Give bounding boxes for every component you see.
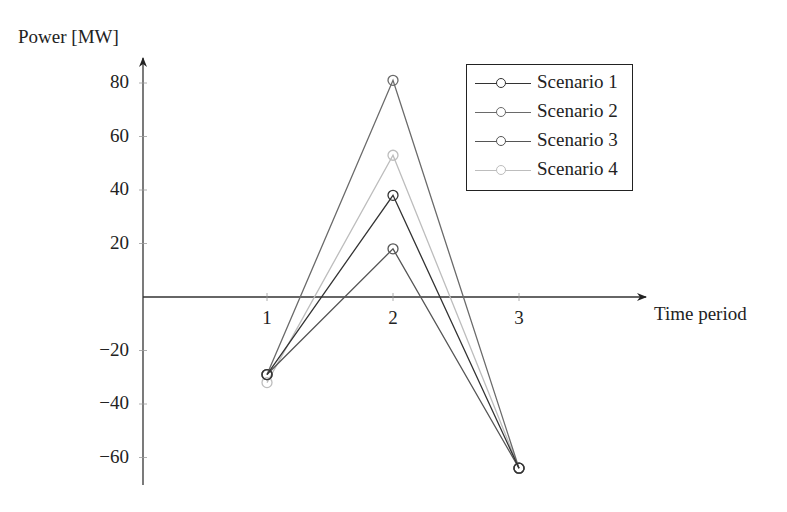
series-scenario-1 xyxy=(262,190,524,473)
y-tick-label: 20 xyxy=(69,232,129,254)
series-scenario-3 xyxy=(262,244,524,473)
legend-label: Scenario 4 xyxy=(537,158,618,180)
y-tick-label: −20 xyxy=(69,339,129,361)
x-tick-label: 2 xyxy=(383,307,403,329)
legend-item: Scenario 1 xyxy=(467,71,632,97)
legend-circle-marker-icon xyxy=(496,165,506,175)
x-axis-label: Time period xyxy=(654,303,747,325)
series-line xyxy=(267,195,519,468)
y-tick-label: 80 xyxy=(69,71,129,93)
legend-circle-marker-icon xyxy=(496,107,506,117)
y-tick-label: 60 xyxy=(69,125,129,147)
legend-item: Scenario 2 xyxy=(467,100,632,126)
x-tick-label: 3 xyxy=(509,307,529,329)
x-tick-label: 1 xyxy=(257,307,277,329)
legend-label: Scenario 2 xyxy=(537,100,618,122)
y-axis-label: Power [MW] xyxy=(18,26,119,48)
legend-circle-marker-icon xyxy=(496,136,506,146)
legend: Scenario 1Scenario 2Scenario 3Scenario 4 xyxy=(466,64,633,191)
y-tick-label: −60 xyxy=(69,446,129,468)
legend-label: Scenario 3 xyxy=(537,129,618,151)
y-tick-label: −40 xyxy=(69,392,129,414)
legend-item: Scenario 4 xyxy=(467,158,632,184)
legend-item: Scenario 3 xyxy=(467,129,632,155)
legend-label: Scenario 1 xyxy=(537,71,618,93)
series-line xyxy=(267,249,519,468)
legend-circle-marker-icon xyxy=(496,78,506,88)
y-tick-label: 40 xyxy=(69,178,129,200)
